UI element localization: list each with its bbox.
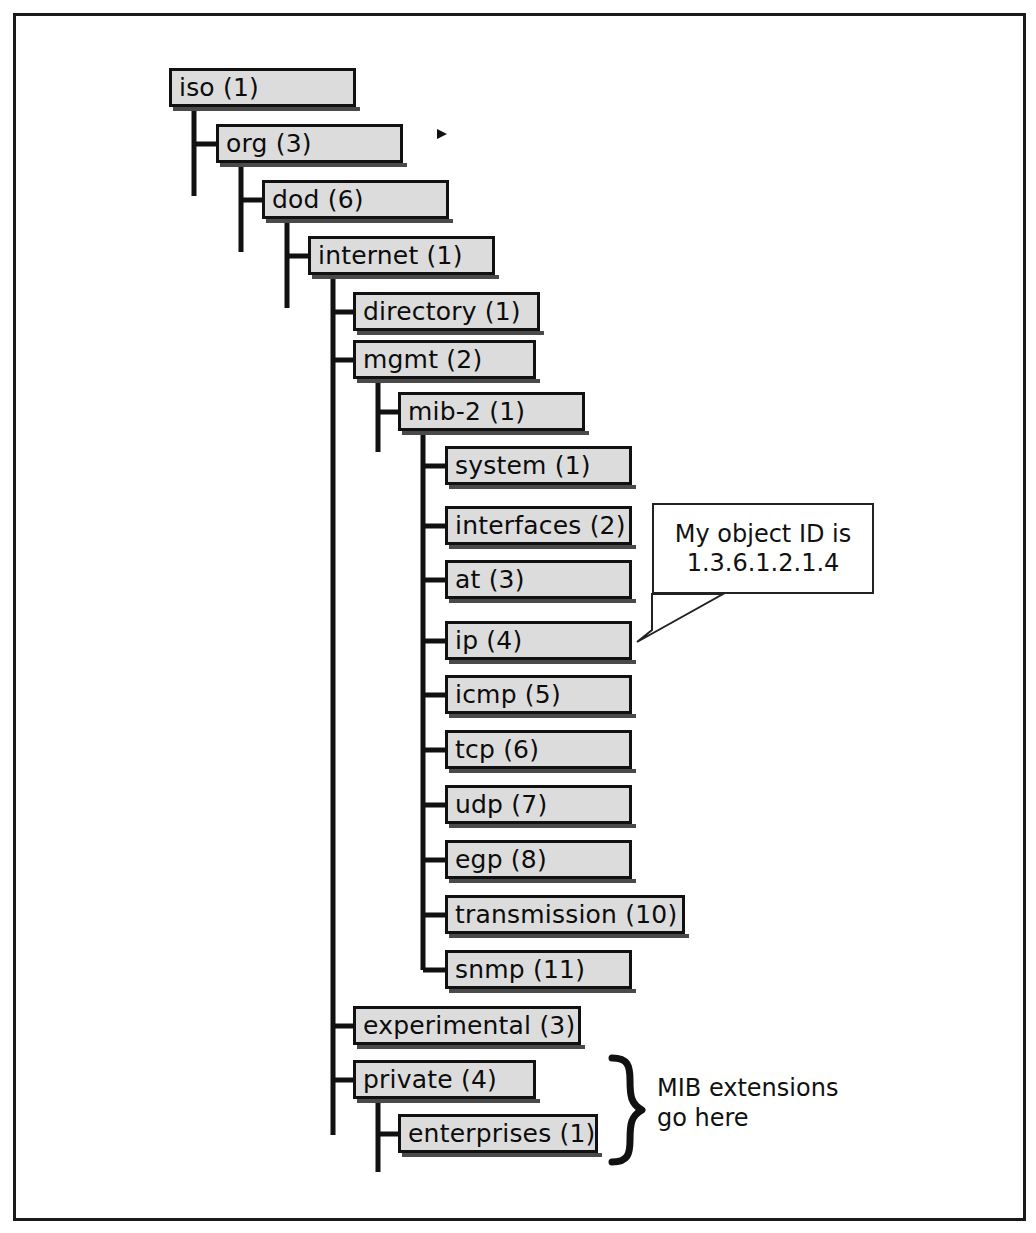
callout-tail [637,594,723,642]
node-label: snmp (11) [448,957,585,982]
node-mib2[interactable]: mib-2 (1) [398,392,585,431]
node-shadow [449,599,636,603]
node-directory[interactable]: directory (1) [353,292,540,331]
node-shadow [357,1045,585,1049]
node-label: iso (1) [172,75,259,100]
node-shadow [266,219,453,223]
node-udp[interactable]: udp (7) [445,785,632,824]
node-shadow [312,275,499,279]
node-dod[interactable]: dod (6) [262,180,449,219]
node-experimental[interactable]: experimental (3) [353,1006,581,1045]
node-label: dod (6) [265,187,364,212]
node-label: tcp (6) [448,737,539,762]
node-shadow [449,714,636,718]
node-shadow [357,1099,540,1103]
node-label: ip (4) [448,628,522,653]
callout-line-1: My object ID is [675,520,851,549]
node-shadow [357,331,544,335]
node-internet[interactable]: internet (1) [308,236,495,275]
node-at[interactable]: at (3) [445,560,632,599]
node-enterprises[interactable]: enterprises (1) [398,1114,598,1153]
node-org[interactable]: org (3) [216,124,403,163]
node-label: private (4) [356,1067,497,1092]
node-label: icmp (5) [448,682,561,707]
node-label: at (3) [448,567,525,592]
node-shadow [449,879,636,883]
node-shadow [220,163,407,167]
node-label: system (1) [448,453,591,478]
brace-annotation: MIB extensions go here [657,1073,907,1133]
diagram-page: iso (1)org (3)dod (6)internet (1)directo… [0,0,1036,1233]
node-system[interactable]: system (1) [445,446,632,485]
edge-mgmt-mib2 [378,379,398,452]
node-icmp[interactable]: icmp (5) [445,675,632,714]
node-shadow [449,769,636,773]
node-label: udp (7) [448,792,547,817]
node-shadow [173,107,360,111]
node-label: mib-2 (1) [401,399,525,424]
node-interfaces[interactable]: interfaces (2) [445,506,632,545]
node-shadow [449,660,636,664]
brace-line-2: go here [657,1103,907,1133]
node-iso[interactable]: iso (1) [169,68,356,107]
edge-org-dod [241,163,262,252]
node-shadow [449,989,636,993]
node-shadow [357,379,540,383]
node-ip[interactable]: ip (4) [445,621,632,660]
node-shadow [402,431,589,435]
node-shadow [449,545,636,549]
node-label: org (3) [219,131,312,156]
node-shadow [402,1153,602,1157]
edge-iso-org [194,107,216,196]
node-shadow [449,485,636,489]
node-shadow [449,934,689,938]
edge-dod-internet [287,219,308,308]
node-label: directory (1) [356,299,521,324]
curly-brace [612,1058,642,1162]
node-label: transmission (10) [448,902,677,927]
node-egp[interactable]: egp (8) [445,840,632,879]
node-mgmt[interactable]: mgmt (2) [353,340,536,379]
node-transmission[interactable]: transmission (10) [445,895,685,934]
node-private[interactable]: private (4) [353,1060,536,1099]
node-tcp[interactable]: tcp (6) [445,730,632,769]
node-label: mgmt (2) [356,347,482,372]
node-snmp[interactable]: snmp (11) [445,950,632,989]
edge-private-enterprises [378,1099,398,1172]
node-shadow [449,824,636,828]
callout-bubble: My object ID is 1.3.6.1.2.1.4 [652,503,874,594]
callout-line-2: 1.3.6.1.2.1.4 [687,549,840,578]
node-label: interfaces (2) [448,513,626,538]
node-label: enterprises (1) [401,1121,596,1146]
node-label: egp (8) [448,847,547,872]
brace-line-1: MIB extensions [657,1073,907,1103]
node-label: internet (1) [311,243,463,268]
node-label: experimental (3) [356,1013,575,1038]
